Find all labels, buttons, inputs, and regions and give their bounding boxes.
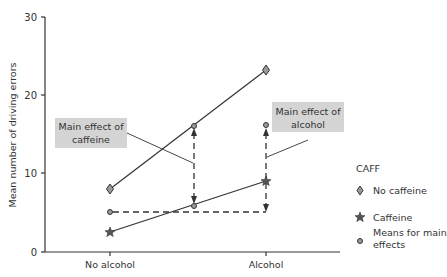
- y-tick-30: 30: [24, 12, 37, 23]
- series-no-caffeine-line: [110, 70, 266, 189]
- legend-item-means-line1: Means for main: [373, 227, 447, 238]
- circle-marker: [108, 123, 269, 215]
- y-tick-20: 20: [24, 90, 37, 101]
- svg-text:alcohol: alcohol: [291, 119, 325, 130]
- annotation-alcohol: Main effect of alcohol: [267, 102, 344, 157]
- circle-icon: [358, 239, 363, 244]
- y-axis-label: Mean number of driving errors: [7, 62, 18, 207]
- arrowheads: [191, 128, 269, 212]
- legend: CAFF No caffeine Caffeine Means for main…: [355, 163, 447, 250]
- legend-item-means-line2: effects: [373, 239, 405, 250]
- x-tick-alcohol: Alcohol: [249, 259, 284, 270]
- x-axis: [45, 252, 340, 256]
- svg-text:Main effect of: Main effect of: [58, 121, 124, 132]
- svg-text:caffeine: caffeine: [72, 134, 110, 145]
- y-axis: [41, 17, 45, 252]
- star-icon: [355, 212, 365, 222]
- y-tick-0: 0: [31, 247, 37, 258]
- annotation-caffeine: Main effect of caffeine: [55, 118, 193, 163]
- y-tick-10: 10: [24, 168, 37, 179]
- chart-canvas: 30 20 10 0 No alcohol Alcohol Mean numbe…: [0, 0, 447, 277]
- main-effect-dashed-lines: [113, 133, 266, 212]
- diamond-icon: [357, 186, 363, 195]
- legend-title: CAFF: [356, 163, 380, 174]
- legend-item-no-caffeine: No caffeine: [373, 185, 427, 196]
- svg-text:Main effect of: Main effect of: [275, 106, 341, 117]
- legend-item-caffeine: Caffeine: [373, 212, 413, 223]
- series-caffeine-line: [110, 181, 266, 232]
- x-tick-no-alcohol: No alcohol: [85, 259, 135, 270]
